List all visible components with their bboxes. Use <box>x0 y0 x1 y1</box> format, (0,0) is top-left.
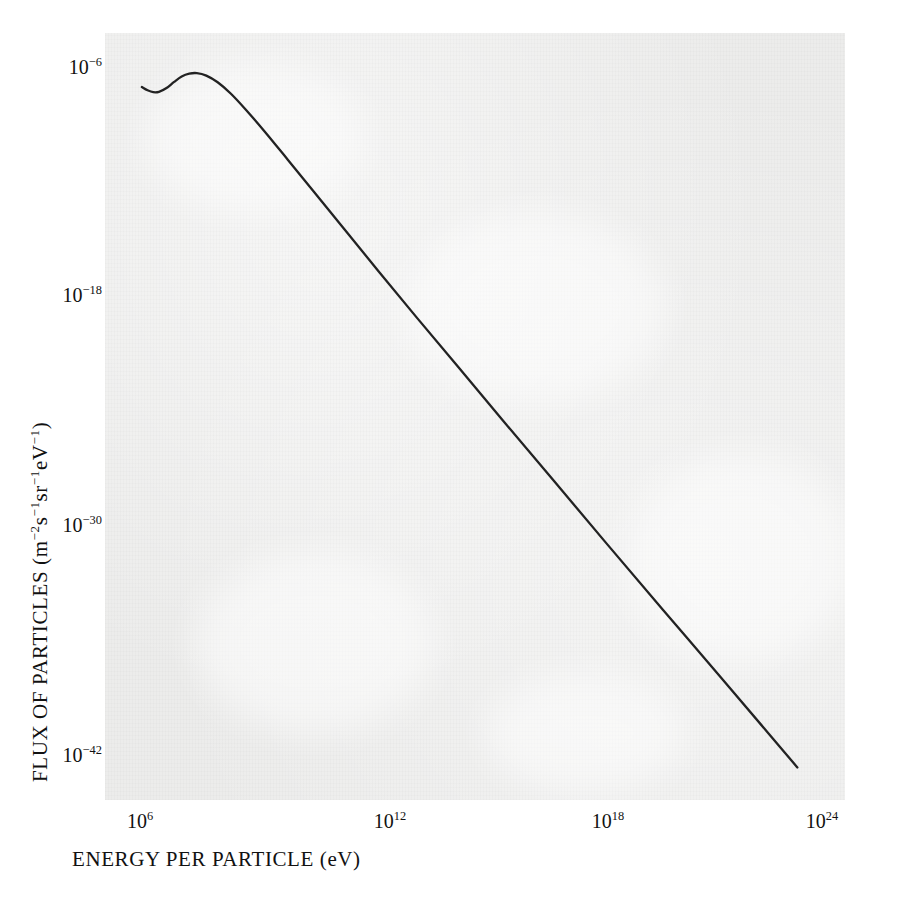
x-tick-label-1e12: 1012 <box>374 810 406 833</box>
x-tick-label-1e24: 1024 <box>806 810 838 833</box>
y-tick-label-1e-18: 10−18 <box>30 284 102 307</box>
x-tick-label-1e18: 1018 <box>592 810 624 833</box>
flux-curve-canvas <box>0 0 897 898</box>
x-axis-title: ENERGY PER PARTICLE (eV) <box>72 847 361 872</box>
cosmic-ray-flux-chart: 10−6 10−18 10−30 10−42 106 1012 1018 102… <box>0 0 897 898</box>
x-tick-label-1e6: 106 <box>127 810 153 833</box>
y-tick-label-1e-6: 10−6 <box>38 56 102 79</box>
y-axis-title-main: FLUX OF PARTICLES (m <box>28 540 52 782</box>
flux-spectrum-line <box>142 73 797 767</box>
y-axis-title: FLUX OF PARTICLES (m−2s−1sr−1eV−1) <box>28 422 53 782</box>
